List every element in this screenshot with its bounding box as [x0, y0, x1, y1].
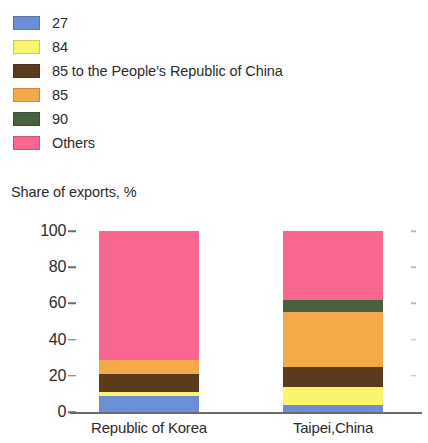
- legend-label-others: Others: [52, 136, 95, 150]
- y-axis-tick-mark: [68, 339, 76, 341]
- bar-segment[interactable]: [283, 367, 383, 387]
- y-axis-tick-label: 40: [10, 331, 66, 349]
- right-axis-tick-mark: [411, 230, 416, 232]
- y-axis-tick-mark: [68, 375, 76, 377]
- x-axis-label: Republic of Korea: [69, 419, 229, 436]
- legend-swatch-85-prc: [13, 64, 40, 78]
- y-axis-tick-label: 60: [10, 294, 66, 312]
- legend-label-27: 27: [52, 16, 68, 30]
- x-axis-line: [70, 412, 422, 414]
- legend-swatch-85: [13, 88, 40, 102]
- legend-label-90: 90: [52, 112, 68, 126]
- legend-swatch-84: [13, 40, 40, 54]
- y-axis-tick-mark: [68, 266, 76, 268]
- y-axis-tick-mark: [68, 303, 76, 305]
- legend-label-84: 84: [52, 40, 68, 54]
- bar-segment[interactable]: [283, 231, 383, 300]
- bar-segment[interactable]: [283, 312, 383, 366]
- plot-area: 020406080100 Republic of KoreaTaipei,Chi…: [0, 176, 428, 443]
- legend-swatch-27: [13, 16, 40, 30]
- legend-swatch-others: [13, 136, 40, 150]
- chart-legend: 27 84 85 to the People’s Republic of Chi…: [0, 0, 428, 155]
- stacked-bar[interactable]: [99, 231, 199, 412]
- legend-item: 90: [0, 107, 428, 131]
- y-axis-tick-label: 20: [10, 367, 66, 385]
- bar-segment[interactable]: [283, 300, 383, 313]
- bar-segment[interactable]: [283, 387, 383, 405]
- bar-segment[interactable]: [99, 360, 199, 374]
- legend-item: 85: [0, 83, 428, 107]
- bar-segment[interactable]: [99, 396, 199, 412]
- right-axis-tick-mark: [411, 303, 416, 305]
- bar-segment[interactable]: [283, 405, 383, 412]
- legend-swatch-90: [13, 112, 40, 126]
- legend-item: Others: [0, 131, 428, 155]
- legend-item: 85 to the People’s Republic of China: [0, 59, 428, 83]
- legend-label-85-prc: 85 to the People’s Republic of China: [52, 64, 283, 78]
- right-axis-tick-mark: [411, 375, 416, 377]
- bar-segment[interactable]: [99, 231, 199, 360]
- legend-item: 27: [0, 11, 428, 35]
- y-axis-tick-label: 80: [10, 258, 66, 276]
- y-axis-tick-label: 0: [10, 403, 66, 421]
- y-axis-tick-mark: [68, 230, 76, 232]
- bar-segment[interactable]: [99, 374, 199, 392]
- right-axis-tick-mark: [411, 339, 416, 341]
- legend-label-85: 85: [52, 88, 68, 102]
- x-axis-label: Taipei,China: [253, 419, 413, 436]
- stacked-bar[interactable]: [283, 231, 383, 412]
- legend-item: 84: [0, 35, 428, 59]
- right-axis-tick-mark: [411, 266, 416, 268]
- stacked-bar-chart: Share of exports, % 020406080100 Republi…: [0, 176, 428, 443]
- y-axis-tick-label: 100: [10, 222, 66, 240]
